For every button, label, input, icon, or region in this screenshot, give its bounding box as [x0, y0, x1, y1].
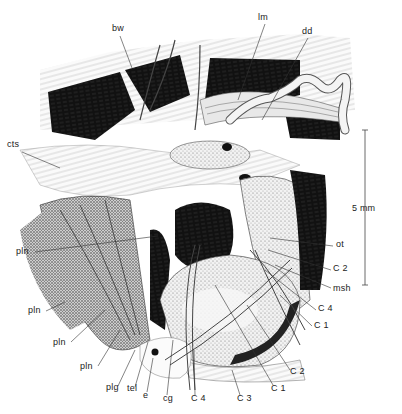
label-ot: ot: [336, 240, 344, 249]
ganglion-cluster: [170, 141, 250, 169]
label-c4: C 4: [318, 304, 333, 313]
label-e: e: [143, 391, 148, 400]
eye-dot: [152, 349, 159, 356]
label-pln: pln: [53, 338, 66, 347]
label-c3: C 3: [237, 394, 252, 403]
scale-bar-label: 5 mm: [352, 204, 375, 213]
label-bw: bw: [112, 24, 124, 33]
label-plg: plg: [106, 383, 119, 392]
label-dd: dd: [302, 27, 312, 36]
label-tel: tel: [127, 384, 137, 393]
label-msh: msh: [333, 284, 351, 293]
label-pln: pln: [80, 362, 93, 371]
label-c1: C 1: [271, 384, 286, 393]
label-c2: C 2: [333, 264, 348, 273]
label-c1: C 1: [314, 321, 329, 330]
label-pln: pln: [16, 247, 29, 256]
anatomical-illustration: [0, 0, 402, 414]
label-cg: cg: [163, 394, 173, 403]
label-pln: pln: [28, 306, 41, 315]
label-c2: C 2: [290, 367, 305, 376]
label-lm: lm: [258, 13, 268, 22]
label-cts: cts: [7, 140, 19, 149]
label-c4: C 4: [191, 394, 206, 403]
